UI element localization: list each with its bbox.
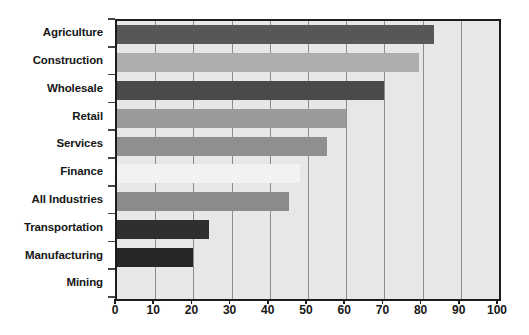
bar: [117, 164, 300, 183]
category-label-cell: Agriculture: [0, 19, 110, 47]
category-tick: [108, 46, 115, 48]
x-axis-tick-label: 20: [185, 304, 198, 316]
x-axis-tick-label: 90: [452, 304, 465, 316]
bar-row: [117, 132, 499, 160]
category-tick: [108, 74, 115, 76]
bar: [117, 53, 419, 72]
category-label: Services: [56, 138, 103, 150]
bar-row: [117, 216, 499, 244]
bar-row: [117, 77, 499, 105]
bar: [117, 25, 434, 44]
category-label-cell: Wholesale: [0, 75, 110, 103]
x-axis-tick-label: 10: [147, 304, 160, 316]
category-tick: [108, 241, 115, 243]
bar: [117, 192, 289, 211]
category-label-cell: Services: [0, 130, 110, 158]
category-label: Transportation: [24, 222, 103, 234]
category-tick: [108, 268, 115, 270]
category-tick: [108, 102, 115, 104]
bars-layer: [117, 21, 499, 299]
x-axis-tick-label: 30: [223, 304, 236, 316]
category-label: Construction: [33, 55, 103, 67]
category-label-cell: All Industries: [0, 186, 110, 214]
bar-chart: AgricultureConstructionWholesaleRetailSe…: [0, 0, 529, 335]
category-tick: [108, 185, 115, 187]
plot-inner: [117, 21, 499, 299]
bar: [117, 248, 193, 267]
bar-row: [117, 160, 499, 188]
bar: [117, 137, 327, 156]
bar-row: [117, 21, 499, 49]
category-label: Manufacturing: [25, 250, 103, 262]
category-label: Finance: [60, 166, 103, 178]
category-axis: AgricultureConstructionWholesaleRetailSe…: [0, 19, 110, 297]
bar-row: [117, 271, 499, 299]
x-axis-labels: 0102030405060708090100: [0, 304, 529, 326]
category-tick: [108, 296, 115, 298]
category-label: Agriculture: [43, 27, 103, 39]
bar: [117, 109, 346, 128]
category-label-cell: Retail: [0, 102, 110, 130]
bar-row: [117, 104, 499, 132]
bar: [117, 81, 384, 100]
category-label: Retail: [72, 111, 103, 123]
x-axis-tick-label: 0: [112, 304, 119, 316]
x-axis-tick-label: 80: [414, 304, 427, 316]
x-axis-tick-label: 40: [261, 304, 274, 316]
plot-area: [115, 19, 501, 301]
category-label: All Industries: [32, 194, 103, 206]
category-label-cell: Construction: [0, 47, 110, 75]
category-label: Mining: [67, 277, 103, 289]
category-tick: [108, 213, 115, 215]
x-axis-tick-label: 70: [376, 304, 389, 316]
category-tick: [108, 18, 115, 20]
category-label-cell: Mining: [0, 269, 110, 297]
category-tick: [108, 129, 115, 131]
category-tick: [108, 157, 115, 159]
bar-row: [117, 49, 499, 77]
bar: [117, 220, 209, 239]
category-label: Wholesale: [47, 83, 103, 95]
category-label-cell: Transportation: [0, 214, 110, 242]
category-label-cell: Finance: [0, 158, 110, 186]
x-axis-tick-label: 50: [299, 304, 312, 316]
bar-row: [117, 243, 499, 271]
bar-row: [117, 188, 499, 216]
x-axis-tick-label: 60: [338, 304, 351, 316]
category-axis-ticks: [108, 19, 115, 297]
category-label-cell: Manufacturing: [0, 241, 110, 269]
x-axis-tick-label: 100: [487, 304, 507, 316]
